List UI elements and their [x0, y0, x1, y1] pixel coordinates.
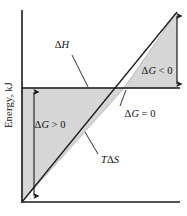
- equilibrium-label: ΔG = 0: [125, 108, 156, 119]
- thermodynamics-figure: Energy, kJ ΔH ΔG > 0 ΔG = 0 ΔG < 0 TΔS: [0, 0, 187, 216]
- dg-zero-comparator: = 0: [139, 108, 155, 119]
- dg-positive-comparator: > 0: [49, 119, 65, 130]
- equilibrium-leader-line: [120, 90, 126, 106]
- y-axis-title: Energy, kJ: [3, 82, 14, 128]
- positive-delta-g-region: [22, 88, 124, 202]
- negative-delta-g-region: [124, 12, 177, 88]
- negative-delta-g-label: ΔG < 0: [142, 65, 173, 76]
- entropy-leader-line: [85, 132, 98, 154]
- dg-negative-comparator: < 0: [156, 65, 172, 76]
- enthalpy-var-glyph: H: [61, 39, 71, 50]
- entropy-var-glyph: S: [114, 154, 120, 165]
- enthalpy-leader-line: [72, 55, 88, 87]
- entropy-label: TΔS: [101, 154, 120, 165]
- enthalpy-label: ΔH: [55, 39, 71, 50]
- figure-canvas: Energy, kJ ΔH ΔG > 0 ΔG = 0 ΔG < 0 TΔS: [0, 0, 187, 216]
- positive-delta-g-label: ΔG > 0: [35, 119, 66, 130]
